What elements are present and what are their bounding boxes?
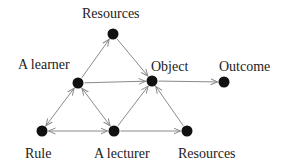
edge-learner-to-object [84,81,145,83]
node-object [147,76,158,87]
nodes-layer [37,29,230,137]
node-resources-bottom [182,126,193,137]
edge-resources_bottom-to-object [156,86,184,125]
label-learner: A learner [18,58,70,72]
label-outcome: Outcome [219,60,270,74]
diagram-canvas [0,0,285,167]
node-rule [37,126,48,137]
edge-learner-to-resources_top [82,39,109,77]
edge-object-to-outcome [158,81,217,82]
edge-learner-to-lecturer [82,88,110,126]
edge-resources_top-to-object [117,39,148,76]
activity-diagram: ResourcesA learnerObjectOutcomeRuleA lec… [0,0,285,167]
node-learner [73,78,84,89]
node-resources-top [108,29,119,40]
node-lecturer [109,126,120,137]
node-outcome [219,77,230,88]
edge-learner-to-rule [46,88,74,126]
label-resources-top: Resources [82,7,140,21]
label-resources-bottom: Resources [178,147,236,161]
label-object: Object [151,60,188,74]
edge-lecturer-to-object [118,86,148,126]
edges-layer [46,39,218,131]
label-lecturer: A lecturer [94,147,150,161]
label-rule: Rule [25,147,51,161]
